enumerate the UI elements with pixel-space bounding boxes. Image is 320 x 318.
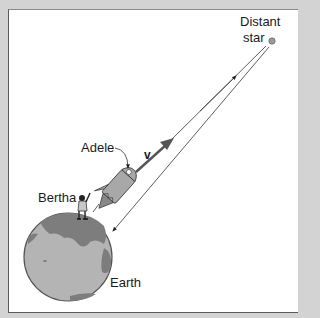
rocket-icon (88, 160, 141, 215)
distant-star-label-line2: star (243, 31, 265, 45)
bertha-label: Bertha (38, 191, 76, 205)
adele-label: Adele (81, 141, 114, 155)
earth-label: Earth (110, 276, 141, 290)
return-path-arrow (113, 47, 269, 231)
distant-star-icon (269, 38, 275, 44)
earth-icon (24, 213, 112, 301)
outgoing-arrow (200, 76, 236, 111)
rocket-exhaust-line (93, 204, 99, 212)
adele-pointer-arrow (115, 148, 128, 168)
velocity-arrow-icon (136, 138, 174, 172)
velocity-label: v (144, 148, 151, 162)
distant-star-label-line1: Distant (240, 15, 280, 29)
